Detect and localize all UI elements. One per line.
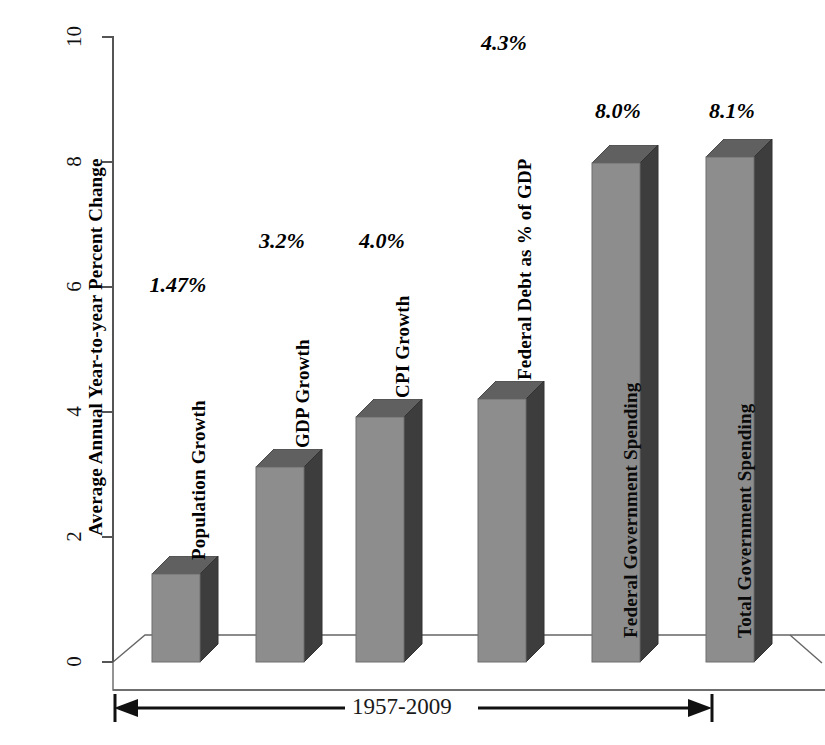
y-axis-line bbox=[112, 36, 114, 662]
value-label-cpi-growth: 4.0% bbox=[342, 228, 422, 254]
category-label-gdp-growth: GDP Growth bbox=[292, 339, 314, 448]
y-tick-label-6: 6 bbox=[62, 265, 87, 309]
bar-3d-cpi-growth bbox=[352, 399, 432, 681]
value-label-gdp-growth: 3.2% bbox=[242, 228, 322, 254]
bar-chart: 10 8 6 4 2 0 Average Annual Year-to-year… bbox=[0, 0, 825, 745]
y-tick-label-10: 10 bbox=[62, 15, 87, 59]
y-tick-label-2: 2 bbox=[62, 515, 87, 559]
value-label-population-growth: 1.47% bbox=[138, 272, 218, 298]
y-tick-mark-0 bbox=[102, 661, 113, 663]
value-label-federal-debt: 4.3% bbox=[464, 30, 544, 56]
y-axis-title: Average Annual Year-to-year Percent Chan… bbox=[85, 67, 107, 627]
category-label-federal-spending: Federal Government Spending bbox=[620, 382, 642, 638]
y-tick-label-8: 8 bbox=[62, 140, 87, 184]
category-label-total-spending: Total Government Spending bbox=[734, 404, 756, 638]
category-label-population-growth: Population Growth bbox=[188, 400, 210, 560]
y-tick-mark-10 bbox=[102, 36, 113, 38]
category-label-cpi-growth: CPI Growth bbox=[392, 296, 414, 398]
range-annotation-label: 1957-2009 bbox=[352, 694, 452, 720]
category-label-federal-debt: Federal Debt as % of GDP bbox=[514, 158, 536, 380]
bar-3d-federal-debt bbox=[474, 381, 554, 681]
bar-3d-population-growth bbox=[148, 556, 228, 681]
y-tick-label-4: 4 bbox=[62, 390, 87, 434]
bar-3d-gdp-growth bbox=[252, 449, 332, 681]
value-label-federal-spending: 8.0% bbox=[578, 98, 658, 124]
value-label-total-spending: 8.1% bbox=[692, 98, 772, 124]
y-tick-label-0: 0 bbox=[62, 640, 87, 684]
